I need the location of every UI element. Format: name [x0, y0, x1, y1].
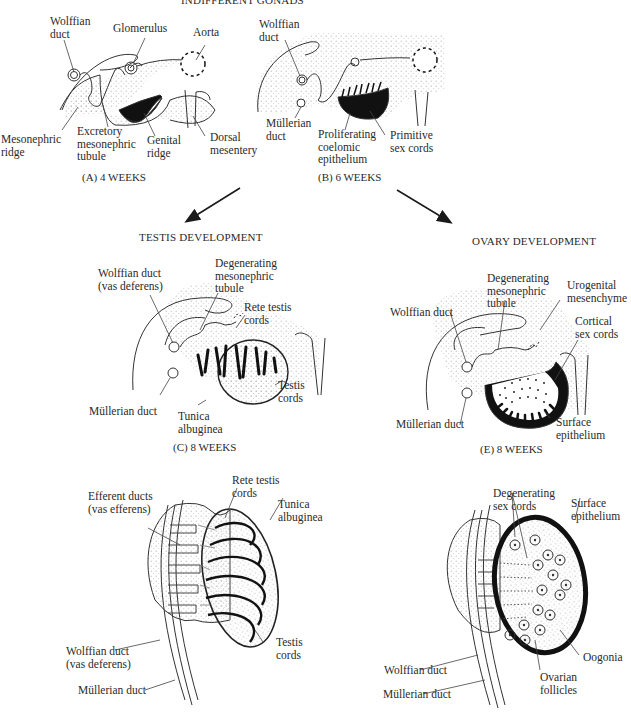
label-b-mullerian-duct: Müllerian duct [266, 117, 311, 142]
label-a-excretory-tubule: Excretory mesonephric tubule [77, 125, 136, 163]
label-b-proliferating-epithelium: Proliferating coelomic epithelium [318, 128, 376, 166]
caption-e: (E) 8 WEEKS [480, 443, 543, 455]
caption-c: (C) 8 WEEKS [173, 441, 236, 453]
label-e-surface-epithelium: Surface epithelium [556, 416, 605, 441]
label-a-dorsal-mesentery: Dorsal mesentery [210, 131, 257, 156]
label-c-rete-testis-cords: Rete testis cords [244, 301, 292, 326]
label-d-testis-cords: Testis cords [276, 636, 303, 661]
arrow-to-testis [187, 188, 240, 221]
label-c-wolffian-duct: Wolffian duct (vas deferens) [98, 267, 163, 292]
caption-a: (A) 4 WEEKS [82, 171, 146, 183]
label-f-mullerian-duct: Müllerian duct [383, 688, 451, 701]
caption-b: (B) 6 WEEKS [318, 171, 381, 183]
label-a-mesonephric-ridge: Mesonephric ridge [1, 133, 61, 158]
label-c-mullerian-duct: Müllerian duct [89, 405, 157, 418]
label-c-degenerating-tubule: Degenerating mesonephric tubule [215, 257, 277, 295]
label-f-surface-epithelium: Surface epithelium [571, 497, 620, 522]
label-e-urogenital-mesenchyme: Urogenital mesenchyme [567, 279, 627, 304]
label-f-degenerating-sex-cords: Degenerating sex cords [493, 487, 555, 512]
label-f-wolffian-duct: Wolffian duct [384, 664, 447, 677]
label-c-testis-cords: Testis cords [278, 379, 305, 404]
label-e-cortical-sex-cords: Cortical sex cords [575, 315, 618, 340]
label-f-oogonia: Oogonia [583, 651, 623, 664]
diagram-artwork [0, 0, 631, 713]
label-e-mullerian-duct: Müllerian duct [396, 418, 464, 431]
heading-ovary-development: OVARY DEVELOPMENT [472, 235, 596, 247]
label-d-wolffian-duct: Wolffian duct (vas deferens) [66, 645, 131, 670]
arrow-to-ovary [397, 190, 450, 222]
label-e-degenerating-tubule: Degenerating mesonephric tubule [487, 272, 549, 310]
label-a-glomerulus: Glomerulus [113, 22, 167, 35]
label-b-wolffian-duct: Wolffian duct [259, 18, 299, 43]
label-d-tunica-albuginea: Tunica albuginea [278, 498, 323, 523]
panel-a-drawing [60, 52, 215, 128]
label-b-primitive-sex-cords: Primitive sex cords [390, 129, 433, 154]
label-d-rete-testis-cords: Rete testis cords [232, 474, 280, 499]
title-indifferent-gonads: INDIFFERENT GONADS [181, 0, 304, 6]
heading-testis-development: TESTIS DEVELOPMENT [139, 231, 263, 243]
label-c-tunica-albuginea: Tunica albuginea [178, 410, 223, 435]
label-d-mullerian-duct: Müllerian duct [78, 684, 146, 697]
panel-b-drawing [256, 32, 445, 126]
label-e-wolffian-duct: Wolffian duct [390, 306, 453, 319]
label-d-efferent-ducts: Efferent ducts (vas efferens) [88, 490, 153, 515]
label-f-ovarian-follicles: Ovarian follicles [540, 671, 577, 696]
label-a-aorta: Aorta [193, 26, 219, 39]
panel-d-drawing [148, 500, 290, 705]
label-a-wolffian-duct: Wolffian duct [50, 15, 90, 40]
label-a-genital-ridge: Genital ridge [147, 134, 181, 159]
